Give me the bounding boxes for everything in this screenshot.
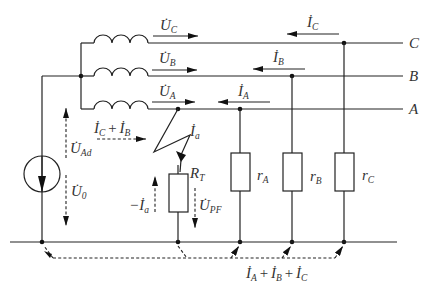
current-arrow-a: İA [218, 83, 270, 102]
fault-path: İa [154, 107, 200, 172]
voltage-arrow-a: U̇A [152, 83, 195, 102]
svg-text:İB: İB [272, 49, 284, 67]
svg-text:İA: İA [237, 83, 249, 101]
svg-text:İC+İB: İC+İB [93, 120, 130, 138]
source-voltage-ad-arrow: U̇Ad [66, 108, 92, 158]
current-sum-cb-arrow: İC+İB [93, 120, 146, 139]
svg-text:U̇0: U̇0 [71, 183, 87, 201]
phase-label-b: B [409, 68, 418, 84]
svg-text:U̇C: U̇C [160, 17, 178, 35]
circuit-diagram: C B A U̇C U̇B U̇A İC İB İA rA [0, 0, 429, 291]
svg-text:U̇B: U̇B [159, 50, 176, 68]
svg-text:İC: İC [306, 14, 319, 32]
load-branch-b: rB [283, 74, 322, 245]
phase-b-line [81, 68, 403, 76]
current-arrow-b: İB [253, 49, 305, 69]
voltage-arrow-b: U̇B [152, 50, 197, 70]
fault-voltage-arrow: U̇PF [195, 188, 222, 228]
svg-text:rA: rA [257, 167, 269, 185]
return-current-label: İA+İB+İC [245, 265, 308, 283]
load-branch-a: rA [231, 107, 269, 245]
svg-text:İa: İa [189, 123, 200, 141]
svg-text:RT: RT [189, 165, 205, 183]
return-current-path [44, 246, 343, 258]
svg-text:U̇A: U̇A [159, 83, 176, 101]
svg-text:rB: rB [310, 168, 322, 186]
phase-c-line [81, 35, 403, 43]
voltage-source [24, 156, 60, 192]
neg-fault-current-arrow: −İa [129, 176, 155, 215]
svg-text:U̇Ad: U̇Ad [70, 140, 92, 158]
svg-text:rC: rC [362, 167, 375, 185]
current-arrow-c: İC [287, 14, 339, 34]
phase-label-a: A [408, 101, 419, 117]
phase-label-c: C [409, 35, 420, 51]
svg-text:U̇PF: U̇PF [199, 197, 222, 215]
source-voltage-0-arrow: U̇0 [66, 175, 87, 226]
voltage-arrow-c: U̇C [153, 17, 198, 36]
load-branch-c: rC [335, 41, 375, 245]
svg-text:−İa: −İa [129, 197, 149, 215]
